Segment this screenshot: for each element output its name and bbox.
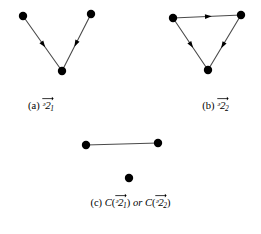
- graph-edge: [86, 143, 158, 145]
- graph-vertex: [204, 66, 212, 74]
- graph-vertex: [58, 67, 66, 75]
- graph-vertex: [82, 141, 90, 149]
- edge-arrowhead-icon: [187, 41, 195, 49]
- caption-c-function-1: C: [105, 197, 112, 208]
- caption-b: (b) ᵊ22: [150, 99, 261, 113]
- caption-c-conjunction: or: [133, 197, 142, 208]
- caption-b-subscript: 2: [225, 104, 229, 113]
- caption-c-symbol-1: ᵊ21: [115, 196, 127, 210]
- graph-vertex: [237, 11, 245, 19]
- caption-c-paren-close-2: ): [167, 197, 171, 208]
- graph-vertex: [169, 14, 177, 22]
- panel-graph-c: (c) C(ᵊ21) or C(ᵊ22): [0, 120, 261, 234]
- edge-arrowhead-icon: [205, 14, 212, 19]
- caption-c: (c) C(ᵊ21) or C(ᵊ22): [0, 196, 261, 210]
- panel-graph-a: (a) ᵊ21: [0, 0, 130, 120]
- caption-a-subscript: 1: [50, 104, 54, 113]
- graph-vertex: [125, 174, 133, 182]
- edge-arrowhead-icon: [219, 41, 226, 49]
- graph-vertex: [87, 10, 95, 18]
- graph-b-drawing: [130, 0, 261, 100]
- edge-arrowhead-icon: [72, 40, 79, 48]
- caption-c-symbol-2: ᵊ22: [155, 196, 167, 210]
- graph-c-drawing: [0, 120, 261, 195]
- caption-b-index: (b): [202, 100, 214, 111]
- graph-vertex: [19, 12, 27, 20]
- caption-a-symbol: ᵊ21: [42, 99, 54, 113]
- caption-c-function-2: C: [145, 197, 152, 208]
- caption-a-index: (a): [28, 100, 40, 111]
- panel-graph-b: (b) ᵊ22: [130, 0, 261, 120]
- caption-c-subscript-2: 2: [163, 201, 167, 210]
- graph-a-drawing: [0, 0, 130, 100]
- caption-c-index: (c): [90, 197, 102, 208]
- graph-vertex: [154, 139, 162, 147]
- figure-container: (a) ᵊ21 (b) ᵊ22 (c) C(ᵊ21) or C(ᵊ22): [0, 0, 261, 234]
- caption-b-symbol: ᵊ22: [217, 99, 229, 113]
- caption-a: (a) ᵊ21: [0, 99, 106, 113]
- caption-c-subscript-1: 1: [123, 201, 127, 210]
